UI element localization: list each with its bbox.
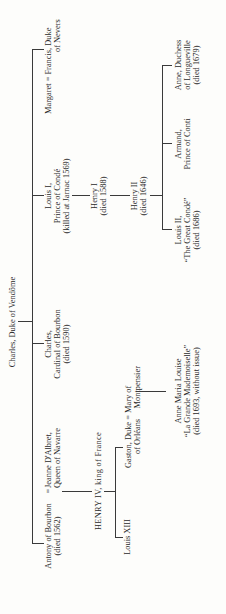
henry-i-line1: Henry I <box>90 166 99 226</box>
drop-charles <box>32 343 44 344</box>
louis-i-line2: Prince of Condé <box>53 142 62 250</box>
antony-line2: (died 1562) <box>53 496 62 576</box>
louis-ii: Louis II, “The Great Condé” (died 1686) <box>174 182 202 278</box>
anne-duchess-longueville: Anne, Duchess of Longueville (died 1679) <box>174 26 202 104</box>
root-name: Charles, Duke of Vendôme <box>8 252 17 392</box>
henry-i: Henry I (died 1588) <box>90 166 108 226</box>
gaston-line2: of Orléans Montpensier <box>133 342 142 468</box>
anne-marie-line3: (died 1693, without issue) <box>192 330 201 452</box>
drop-gaston <box>115 447 123 448</box>
gaston-orleans: Gaston, Duke = Mary of of Orléans Montpe… <box>124 342 142 468</box>
armand-line1: Armand, <box>174 102 183 186</box>
charles-line3: (died 1590) <box>62 296 71 392</box>
anne-marie-line1: Anne Maria Louise <box>174 330 183 452</box>
bar-henry-ii-children <box>162 66 163 230</box>
drop-margaret <box>32 49 44 50</box>
stem-henry-ii <box>110 195 130 196</box>
antony-of-bourbon: Antony of Bourbon (died 1562) <box>44 496 62 576</box>
margaret-line1: Margaret = Francis, Duke <box>44 4 53 114</box>
gaston-line1: Gaston, Duke = Mary of <box>124 342 133 468</box>
henry-ii-line1: Henry II <box>130 166 139 226</box>
root-stem <box>18 321 32 322</box>
genealogy-chart: Charles, Duke of Vendôme Antony of Bourb… <box>0 0 226 614</box>
jeanne-line2: Queen of Navarre <box>53 412 62 488</box>
bar-henry-iv-children <box>115 448 116 538</box>
drop-louis-i <box>32 195 44 196</box>
drop-armand <box>162 143 172 144</box>
louis-i-line1: Louis I, <box>44 142 53 250</box>
anne-duchess-line1: Anne, Duchess <box>174 26 183 104</box>
antony-line1: Antony of Bourbon <box>44 496 53 576</box>
drop-anne-duchess <box>162 65 172 66</box>
margaret: Margaret = Francis, Duke of Nevers <box>44 4 62 114</box>
charles-line1: Charles, <box>44 296 53 392</box>
drop-louis-ii <box>162 229 172 230</box>
louis-ii-line3: (died 1686) <box>192 182 201 278</box>
stem-henry-iv-children <box>104 491 115 492</box>
louis-xiii: Louis XIII <box>123 510 132 564</box>
stem-anne-marie <box>136 391 166 392</box>
main-bar <box>32 50 33 544</box>
louis-i-line3: (killed at Jarnac 1569) <box>62 142 71 250</box>
charles-line2: Cardinal of Bourbon <box>53 296 62 392</box>
drop-antony <box>32 543 44 544</box>
anne-marie-line2: “La Grande Mademoiselle” <box>183 330 192 452</box>
anne-duchess-line2: of Longueville <box>183 26 192 104</box>
jeanne-dalbret: Jeanne D'Albret, Queen of Navarre <box>44 412 62 488</box>
anne-duchess-line3: (died 1679) <box>192 26 201 104</box>
louis-ii-line2: “The Great Condé” <box>183 182 192 278</box>
armand-line2: Prince of Conti <box>183 102 192 186</box>
louis-i: Louis I, Prince of Condé (killed at Jarn… <box>44 142 72 250</box>
charles-cardinal: Charles, Cardinal of Bourbon (died 1590) <box>44 296 72 392</box>
jeanne-line1: Jeanne D'Albret, <box>44 412 53 488</box>
stem-henry-i <box>72 195 90 196</box>
stem-henry-ii-children <box>150 195 162 196</box>
margaret-line2: of Nevers <box>53 4 62 114</box>
henry-iv: HENRY IV, king of France <box>94 416 103 546</box>
henry-ii-line2: (died 1646) <box>139 166 148 226</box>
drop-louis-xiii <box>115 537 123 538</box>
armand-conti: Armand, Prince of Conti <box>174 102 192 186</box>
henry-i-line2: (died 1588) <box>99 166 108 226</box>
henry-ii: Henry II (died 1646) <box>130 166 148 226</box>
anne-marie-louise: Anne Maria Louise “La Grande Mademoisell… <box>174 330 202 452</box>
louis-ii-line1: Louis II, <box>174 182 183 278</box>
stem-henry-iv <box>62 491 92 492</box>
